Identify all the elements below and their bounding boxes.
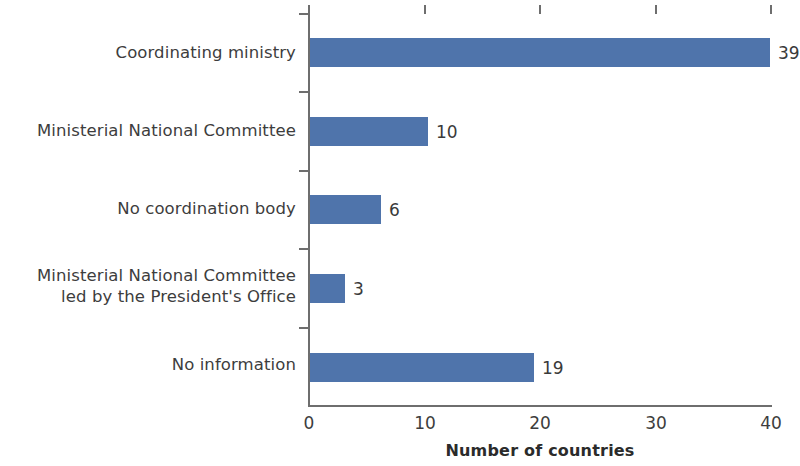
bar-ministerial-national-committee-president — [310, 274, 345, 303]
bar-ministerial-national-committee — [310, 117, 428, 146]
bar-value-no-information: 19 — [542, 358, 564, 378]
x-axis-title: Number of countries — [308, 441, 772, 460]
bar-no-information — [310, 353, 534, 382]
category-label-no-coordination-body: No coordination body — [0, 198, 296, 219]
x-axis-tick-label: 10 — [414, 413, 436, 433]
bar-value-ministerial-national-committee: 10 — [436, 122, 458, 142]
bar-no-coordination-body — [310, 195, 381, 224]
x-axis-tick — [655, 5, 657, 14]
bar-value-no-coordination-body: 6 — [389, 200, 400, 220]
bar-value-ministerial-national-committee-president: 3 — [353, 279, 364, 299]
y-axis-tick — [299, 248, 308, 250]
x-axis-tick-label: 0 — [304, 413, 315, 433]
category-axis-labels: Coordinating ministry Ministerial Nation… — [0, 13, 296, 405]
x-axis-tick-label: 40 — [760, 413, 782, 433]
x-axis-tick — [308, 5, 310, 14]
bar-coordinating-ministry — [310, 38, 770, 67]
x-axis-tick — [539, 5, 541, 14]
category-label-ministerial-national-committee: Ministerial National Committee — [0, 120, 296, 141]
x-axis-tick-label: 30 — [645, 413, 667, 433]
bar-value-coordinating-ministry: 39 — [778, 43, 800, 63]
category-label-coordinating-ministry: Coordinating ministry — [0, 42, 296, 63]
x-axis-tick — [770, 5, 772, 14]
x-axis-tick-label: 20 — [529, 413, 551, 433]
category-label-no-information: No information — [0, 354, 296, 375]
y-axis-tick — [299, 327, 308, 329]
category-label-ministerial-national-committee-president: Ministerial National Committee led by th… — [0, 265, 296, 307]
x-axis-tick — [424, 5, 426, 14]
plot-area: 39 10 6 3 19 0 10 20 30 40 — [308, 13, 770, 405]
y-axis-tick — [299, 170, 308, 172]
y-axis-tick — [299, 91, 308, 93]
x-axis-line — [308, 405, 772, 407]
y-axis-tick — [299, 13, 308, 15]
